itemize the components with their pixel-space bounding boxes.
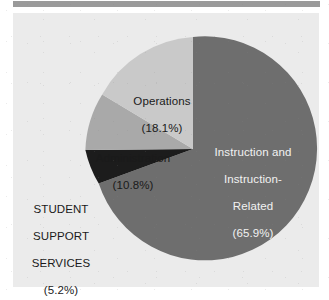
pie-label-student-support-line1: STUDENT [33, 203, 88, 215]
pie-label-administration-line1: Administration [96, 152, 170, 164]
pie-label-student-support-services: STUDENT SUPPORT SERVICES (5.2%) [15, 189, 107, 300]
pie-label-instruction: Instruction and Instruction- Related (65… [199, 132, 307, 254]
pie-label-student-support-line2: SUPPORT [33, 230, 89, 242]
pie-label-instruction-line1: Instruction and [215, 146, 292, 158]
header-rule-bar [13, 1, 320, 7]
pie-label-instruction-line2: Instruction- [224, 173, 282, 185]
pie-chart-panel: Instruction and Instruction- Related (65… [13, 13, 319, 287]
pie-label-student-support-percent: (5.2%) [15, 284, 107, 298]
pie-label-instruction-line3: Related [233, 200, 273, 212]
pie-label-instruction-percent: (65.9%) [199, 227, 307, 241]
pie-label-student-support-line3: SERVICES [32, 257, 91, 269]
pie-label-operations-percent: (18.1%) [110, 122, 214, 136]
pie-chart: Instruction and Instruction- Related (65… [13, 13, 319, 287]
pie-label-operations-line1: Operations [133, 95, 190, 107]
